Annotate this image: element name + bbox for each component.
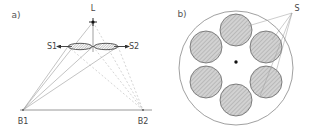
spot-upper-right [250,31,282,63]
spot-lower-left [190,66,222,98]
panel-a: L S1 S2 B1 B2 a) [11,4,152,126]
center-dot [234,60,237,63]
base-point-b2 [142,109,144,111]
apex-marker-l [89,18,97,26]
base-point-b1 [22,109,24,111]
spot-top [220,14,252,46]
base-label-b2: B2 [138,117,149,126]
panel-b-label: b) [177,9,186,19]
spot-lower-right [250,66,282,98]
solid-ray-bundle-b1 [23,22,118,110]
panel-a-label: a) [11,10,20,20]
dashed-ray-bundle-b2 [68,22,143,110]
apex-label-l: L [91,4,96,13]
figure-container: L S1 S2 B1 B2 a) [0,0,313,132]
spot-upper-left [190,31,222,63]
panel-b: b) S [177,4,299,125]
base-label-b1: B1 [18,117,29,126]
source-label-s2: S2 [129,42,139,51]
source-label-s1: S1 [47,42,57,51]
spot-bottom-right [220,84,252,116]
figure-svg: L S1 S2 B1 B2 a) [0,0,313,132]
callout-label-s: S [294,4,299,13]
